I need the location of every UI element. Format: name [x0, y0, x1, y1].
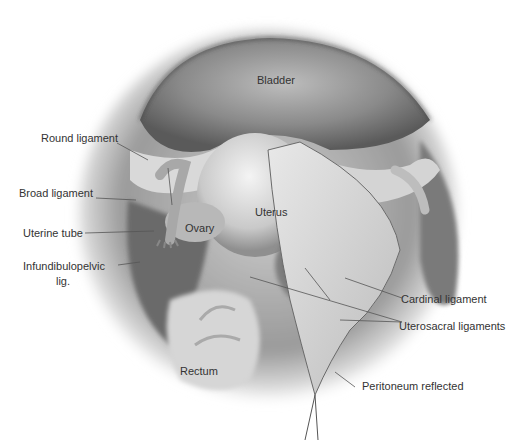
label-infundibulopelvic-line1: Infundibulopelvic — [23, 260, 103, 272]
label-infundibulopelvic-lig: Infundibulopelvic lig. — [23, 260, 103, 287]
label-rectum: Rectum — [180, 365, 218, 377]
anatomy-figure: Bladder Round ligament Broad ligament Ut… — [0, 0, 514, 445]
label-peritoneum-reflected: Peritoneum reflected — [362, 380, 464, 392]
label-round-ligament: Round ligament — [41, 132, 118, 144]
label-cardinal-ligament: Cardinal ligament — [401, 293, 487, 305]
label-uterosacral-ligaments: Uterosacral ligaments — [399, 320, 505, 332]
label-uterus: Uterus — [255, 206, 287, 218]
label-uterine-tube: Uterine tube — [23, 227, 83, 239]
label-bladder: Bladder — [257, 74, 295, 86]
label-infundibulopelvic-line2: lig. — [23, 275, 103, 287]
label-broad-ligament: Broad ligament — [19, 187, 93, 199]
label-ovary: Ovary — [185, 222, 214, 234]
pelvic-illustration — [0, 0, 514, 445]
